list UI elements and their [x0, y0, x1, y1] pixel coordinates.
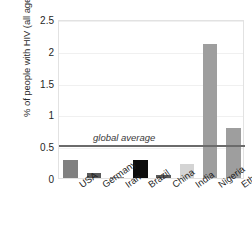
x-tick-label-usa: USA	[77, 181, 83, 190]
hiv-prevalence-bar-chart: % of people with HIV (all ages) 00.511.5…	[0, 0, 252, 241]
y-tick-label: 2.5	[22, 15, 54, 26]
x-tick-label-china: China	[170, 181, 176, 190]
bar-usa	[63, 160, 77, 178]
x-axis-tick-labels: USAGermanyIranBrazilChinaIndiaNigeriaEth…	[58, 181, 244, 241]
bars-layer	[59, 21, 243, 178]
global-average-label: global average	[93, 132, 155, 143]
x-tick-label-ethiopia: Ethiopia	[239, 181, 245, 190]
y-tick-label: 1	[22, 110, 54, 121]
y-tick-label: 0	[22, 174, 54, 185]
y-tick-label: 2	[22, 46, 54, 57]
plot-area: global average	[58, 20, 244, 179]
y-axis-tick-labels: 00.511.522.5	[22, 0, 54, 241]
x-tick-label-germany: Germany	[100, 181, 106, 190]
x-tick-label-india: India	[193, 181, 199, 190]
global-average-line	[59, 145, 245, 147]
x-tick-label-iran: Iran	[123, 181, 129, 190]
x-tick-label-brazil: Brazil	[146, 181, 152, 190]
x-tick-label-nigeria: Nigeria	[216, 181, 222, 190]
y-tick-label: 1.5	[22, 78, 54, 89]
bar-nigeria	[203, 44, 217, 178]
y-tick-label: 0.5	[22, 142, 54, 153]
